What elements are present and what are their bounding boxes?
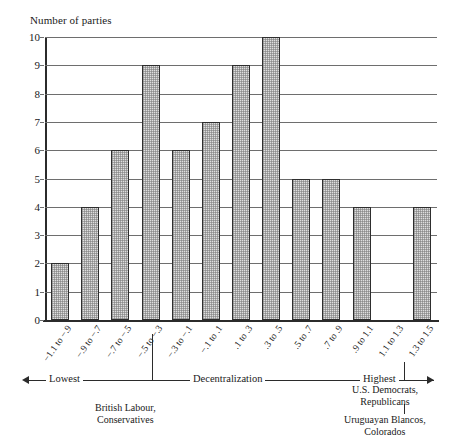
annotation-uruguayan-parties: Uruguayan Blancos, Colorados	[344, 414, 426, 438]
arrow-left-icon	[22, 376, 29, 384]
scale-label-highest: Highest	[360, 373, 399, 384]
x-tick-label: −.3 to −.1	[165, 324, 194, 360]
x-tick-label: −.7 to −.5	[105, 324, 134, 360]
y-tick-mark-6	[40, 150, 44, 151]
bar[interactable]	[353, 207, 371, 320]
y-tick-mark-5	[40, 179, 44, 180]
y-tick-mark-9	[40, 65, 44, 66]
bar-slot	[135, 37, 165, 320]
bar[interactable]	[262, 37, 280, 320]
annotation-line-2: Republicans	[352, 396, 418, 408]
scale-label-center: Decentralization	[190, 373, 265, 384]
bar-slot	[105, 37, 135, 320]
bar-slot	[377, 37, 407, 320]
bars-group	[45, 37, 437, 320]
y-tick-mark-7	[40, 122, 44, 123]
x-tick-label: −1.1 to −.9	[42, 324, 74, 364]
bar[interactable]	[51, 263, 69, 320]
bar-slot	[196, 37, 226, 320]
bar[interactable]	[292, 179, 310, 321]
y-tick-mark-0	[40, 320, 44, 321]
annotation-line-1: U.S. Democrats,	[352, 384, 418, 396]
y-tick-mark-2	[40, 263, 44, 264]
plot-area: 109876543210	[45, 37, 437, 320]
annotation-line-2: Colorados	[344, 426, 426, 438]
scale-label-lowest: Lowest	[46, 373, 83, 384]
bar-slot	[75, 37, 105, 320]
callout-pointer-right	[404, 362, 405, 380]
bar[interactable]	[232, 65, 250, 320]
bar[interactable]	[202, 122, 220, 320]
x-tick-label: −.5 to −.3	[135, 324, 164, 360]
y-tick-mark-4	[40, 207, 44, 208]
y-tick-label-10: 10	[29, 32, 40, 43]
x-tick-label: .7 to .9	[322, 324, 345, 351]
bar-slot	[256, 37, 286, 320]
bar[interactable]	[172, 150, 190, 320]
y-tick-mark-8	[40, 94, 44, 95]
bar[interactable]	[142, 65, 160, 320]
bar-slot	[226, 37, 256, 320]
bar-slot	[45, 37, 75, 320]
bar[interactable]	[111, 150, 129, 320]
x-tick-label: .5 to .7	[292, 324, 315, 351]
x-tick-label: 1.1 to 1.3	[377, 324, 405, 359]
annotation-british-labour: British Labour, Conservatives	[95, 402, 156, 426]
bar[interactable]	[322, 179, 340, 321]
x-axis-line	[43, 320, 439, 322]
annotation-line-1: Uruguayan Blancos,	[344, 414, 426, 426]
x-tick-label: .3 to .5	[262, 324, 285, 351]
bar-slot	[407, 37, 437, 320]
bar-slot	[347, 37, 377, 320]
x-tick-label: 1.3 to 1.5	[407, 324, 435, 359]
callout-pointer-left	[152, 334, 153, 380]
bar[interactable]	[413, 207, 431, 320]
x-tick-label: −.9 to −.7	[75, 324, 104, 360]
y-axis-title: Number of parties	[30, 14, 112, 26]
y-tick-mark-10	[40, 37, 44, 38]
x-tick-label: −.1 to .1	[199, 324, 225, 355]
x-tick-label: .9 to 1.1	[350, 324, 376, 355]
bar[interactable]	[81, 207, 99, 320]
y-tick-mark-1	[40, 292, 44, 293]
annotation-line-2: Conservatives	[95, 414, 156, 426]
y-tick-mark-3	[40, 235, 44, 236]
annotation-line-1: British Labour,	[95, 402, 156, 414]
bar-slot	[286, 37, 316, 320]
bar-slot	[316, 37, 346, 320]
histogram-chart: Number of parties 109876543210 −1.1 to −…	[0, 0, 451, 448]
x-tick-label: .1 to .3	[232, 324, 255, 351]
bar-slot	[166, 37, 196, 320]
annotation-us-parties: U.S. Democrats, Republicans	[352, 384, 418, 408]
